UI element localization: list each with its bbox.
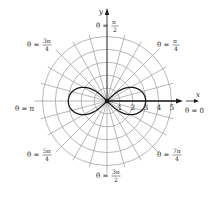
svg-text:θ =: θ = (27, 41, 39, 49)
x-axis-label: x (196, 91, 200, 99)
svg-text:θ =: θ = (157, 151, 169, 159)
y-axis-arrowhead (105, 8, 109, 15)
svg-text:4: 4 (45, 45, 49, 52)
y-axis-label: y (98, 8, 104, 16)
svg-text:3π: 3π (43, 37, 51, 44)
svg-text:4: 4 (174, 45, 178, 52)
tick-label-1: 1 (118, 103, 123, 112)
svg-text:4: 4 (175, 155, 179, 162)
svg-text:5π: 5π (43, 147, 51, 154)
pole-point (105, 99, 109, 103)
svg-text:2: 2 (114, 176, 118, 183)
svg-text:7π: 7π (173, 147, 181, 154)
grid-spoke (89, 101, 107, 167)
svg-text:θ =: θ = (157, 41, 169, 49)
grid-spoke (73, 42, 107, 101)
svg-text:π: π (112, 18, 116, 25)
svg-text:θ =: θ = (96, 172, 108, 180)
grid-spoke (48, 67, 107, 101)
angle-label-3pi-over-4: θ = 3π 4 (27, 37, 52, 52)
polar-graph-svg: x y 1 2 3 4 5 θ = 0 θ = π 2 θ = π 4 (0, 0, 214, 205)
grid-spoke (107, 67, 166, 101)
angle-label-5pi-over-4: θ = 5π 4 (27, 147, 52, 162)
tick-label-4: 4 (157, 103, 162, 112)
x-axis-arrowhead (176, 99, 183, 104)
svg-text:4: 4 (45, 155, 49, 162)
tick-label-3: 3 (144, 103, 149, 112)
polar-graph-figure: x y 1 2 3 4 5 θ = 0 θ = π 2 θ = π 4 (0, 0, 214, 205)
svg-text:π: π (173, 37, 177, 44)
grid-spoke (48, 101, 107, 135)
svg-text:θ = 0: θ = 0 (185, 107, 204, 115)
x-direction-arrowhead (194, 99, 199, 103)
svg-text:θ = π: θ = π (15, 105, 35, 113)
angle-label-0: θ = 0 (185, 107, 204, 115)
grid-spoke (73, 101, 107, 160)
svg-text:θ =: θ = (27, 151, 39, 159)
angle-label-pi: θ = π (15, 105, 35, 113)
angle-label-3pi-over-2: θ = 3π 2 (96, 168, 121, 183)
grid-spoke (107, 42, 141, 101)
grid-spoke (89, 35, 107, 101)
angle-label-7pi-over-4: θ = 7π 4 (157, 147, 182, 162)
svg-text:θ =: θ = (96, 22, 108, 30)
grid-spoke (107, 101, 141, 160)
tick-label-5: 5 (170, 103, 175, 112)
grid-spoke (107, 35, 125, 101)
angle-label-pi-over-4: θ = π 4 (157, 37, 180, 52)
svg-text:3π: 3π (112, 168, 120, 175)
svg-text:2: 2 (113, 26, 117, 33)
tick-label-2: 2 (131, 103, 136, 112)
